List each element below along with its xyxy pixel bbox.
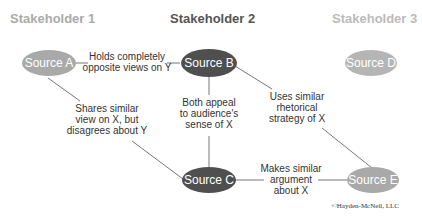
edge-label-ab: Holds completely opposite views on Y — [83, 51, 172, 73]
node-source-b-label: Source B — [184, 56, 233, 70]
edge-label-ab-line: opposite views on Y — [83, 62, 172, 73]
edge-be-bottom — [322, 128, 372, 168]
edge-label-ac-line: disagrees about Y — [67, 125, 148, 136]
node-source-a: Source A — [22, 50, 76, 76]
edge-label-be: Uses similar rhetorical strategy of X — [269, 91, 325, 124]
node-source-c-label: Source C — [184, 173, 234, 187]
copyright-notice: ©Hayden-McNeil, LLC — [331, 202, 399, 210]
edge-label-ac: Shares similar view on X, but disagrees … — [67, 103, 148, 136]
node-source-e: Source E — [347, 167, 399, 193]
edge-label-be-line: Uses similar — [270, 91, 325, 102]
edge-label-ce-line: Makes similar — [260, 163, 322, 174]
edge-label-ac-line: Shares similar — [75, 103, 139, 114]
edge-label-bc-line: sense of X — [185, 119, 233, 130]
stakeholder-2-heading: Stakeholder 2 — [170, 11, 255, 26]
edge-label-ac-line: view on X, but — [76, 114, 139, 125]
edge-label-be-line: strategy of X — [269, 113, 325, 124]
edge-label-bc: Both appeal to audience's sense of X — [180, 97, 239, 130]
relationship-diagram: Stakeholder 1 Stakeholder 2 Stakeholder … — [0, 0, 422, 219]
edge-label-ce-line: about X — [274, 185, 309, 196]
stakeholder-3-heading: Stakeholder 3 — [332, 11, 417, 26]
node-source-a-label: Source A — [25, 56, 74, 70]
node-source-d: Source D — [345, 50, 397, 76]
edge-label-ce-line: argument — [270, 174, 312, 185]
edge-label-bc-line: to audience's — [180, 108, 239, 119]
node-source-e-label: Source E — [348, 173, 397, 187]
edge-ac-bottom — [132, 141, 183, 179]
node-source-d-label: Source D — [346, 56, 396, 70]
node-source-c: Source C — [182, 167, 236, 193]
edge-be-top — [235, 66, 272, 89]
edge-label-ce: Makes similar argument about X — [260, 163, 322, 196]
edge-label-ab-line: Holds completely — [89, 51, 165, 62]
edge-ac-top — [48, 78, 80, 101]
edge-label-be-line: rhetorical — [276, 102, 317, 113]
stakeholder-1-heading: Stakeholder 1 — [10, 11, 95, 26]
node-source-b: Source B — [181, 49, 237, 77]
edge-label-bc-line: Both appeal — [182, 97, 235, 108]
